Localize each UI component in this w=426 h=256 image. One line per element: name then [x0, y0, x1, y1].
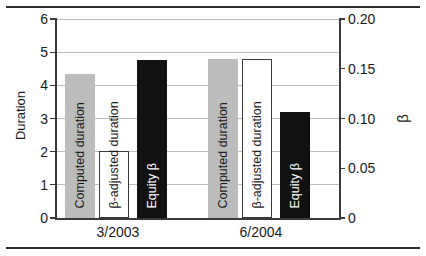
left-axis-tick-mark [50, 217, 56, 218]
left-axis-title: Duration [13, 76, 28, 156]
bar-label: β-adjusted duration [108, 102, 121, 209]
left-axis-tick-mark [50, 151, 56, 152]
bar: Equity β [280, 112, 310, 218]
bar: Computed duration [65, 74, 95, 218]
right-axis-title: β [394, 99, 411, 139]
right-axis-tick-mark [339, 168, 345, 169]
left-axis-tick-label: 1 [14, 178, 48, 192]
left-axis-tick-label: 6 [14, 12, 48, 26]
bar-label: Computed duration [74, 103, 87, 209]
left-axis-tick-label: 5 [14, 45, 48, 59]
right-axis-tick-mark [339, 68, 345, 69]
right-axis-tick-label: 0 [348, 211, 398, 225]
right-axis-tick-label: 0.15 [348, 62, 398, 76]
left-axis-tick-mark [50, 18, 56, 19]
bar: Equity β [137, 60, 167, 218]
gridline [56, 52, 340, 53]
right-axis-tick-mark [339, 18, 345, 19]
x-axis-line [55, 218, 341, 220]
bar: β-adjusted duration [242, 59, 272, 218]
right-axis-tick-label: 0.20 [348, 12, 398, 26]
bar-label: Computed duration [217, 103, 230, 209]
bar-label: β-adjusted duration [251, 102, 264, 209]
right-axis-tick-mark [339, 217, 345, 218]
duration-beta-bar-chart: 6543210 0.200.150.100.050 Duration β Com… [0, 0, 426, 256]
category-label: 6/2004 [216, 224, 306, 240]
left-axis-tick-mark [50, 118, 56, 119]
gridline [56, 19, 340, 20]
right-axis-tick-label: 0.05 [348, 161, 398, 175]
right-axis-tick-label: 0.10 [348, 112, 398, 126]
bar-label: Equity β [289, 164, 302, 209]
bar: β-adjusted duration [99, 151, 129, 218]
bar: Computed duration [208, 59, 238, 218]
gridline [56, 85, 340, 86]
left-axis-tick-label: 0 [14, 211, 48, 225]
left-axis-tick-mark [50, 85, 56, 86]
left-axis-tick-mark [50, 184, 56, 185]
category-label: 3/2003 [73, 224, 163, 240]
right-axis-tick-mark [339, 118, 345, 119]
bar-label: Equity β [146, 164, 159, 209]
left-axis-tick-mark [50, 52, 56, 53]
